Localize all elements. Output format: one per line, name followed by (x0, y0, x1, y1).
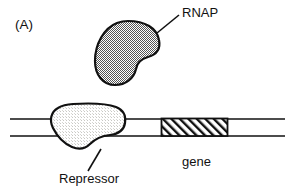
figure-panel-a: (A) RNAP gene Repressor (0, 0, 293, 194)
gene-box-shape (162, 119, 228, 137)
gene-box (162, 119, 228, 137)
diagram-canvas: (A) RNAP gene Repressor (0, 0, 293, 194)
repressor-blob-shape (51, 104, 125, 149)
repressor-label: Repressor (59, 171, 120, 186)
rnap-leader-line (157, 15, 179, 33)
gene-label: gene (182, 154, 211, 169)
panel-letter: (A) (15, 17, 33, 32)
rnap-label: RNAP (182, 5, 218, 20)
repressor-molecule (51, 104, 125, 149)
repressor-leader-line (88, 149, 101, 171)
rnap-molecule (95, 21, 159, 85)
rnap-blob-shape (95, 21, 159, 85)
